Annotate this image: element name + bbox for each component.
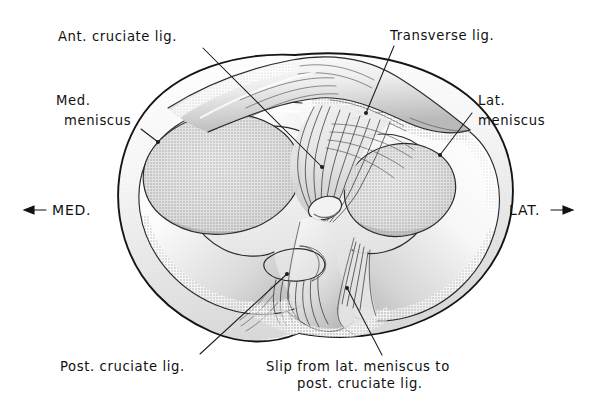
label-med-meniscus-line2: meniscus [64,113,131,128]
lat-arrow-head [563,206,573,214]
anatomical-figure: Ant. cruciate lig. Transverse lig. Med. … [0,0,594,405]
tibial-plateau-illustration: Ant. cruciate lig. Transverse lig. Med. … [0,0,594,405]
lat-direction-arrow [551,206,573,214]
label-transverse-lig: Transverse lig. [389,28,494,43]
leader-dot-ant-cruciate [320,165,324,169]
label-post-cruciate-lig: Post. cruciate lig. [60,359,185,374]
label-slip-line1: Slip from lat. meniscus to [266,359,450,374]
label-ant-cruciate-lig: Ant. cruciate lig. [58,29,177,44]
leader-dot-transverse [364,111,368,115]
label-slip-line2: post. cruciate lig. [297,376,423,391]
med-direction-arrow [24,206,46,214]
label-lat-meniscus-line1: Lat. [478,93,505,108]
label-lat-meniscus-line2: meniscus [478,113,545,128]
leader-dot-slip [345,286,349,290]
leader-dot-med-meniscus [156,140,160,144]
label-med-meniscus-line1: Med. [56,93,90,108]
leader-dot-post-cruciate [285,272,289,276]
leader-dot-lat-meniscus [438,153,442,157]
label-lat-direction: LAT. [509,202,540,218]
label-med-direction: MED. [52,202,91,218]
med-arrow-head [24,206,34,214]
